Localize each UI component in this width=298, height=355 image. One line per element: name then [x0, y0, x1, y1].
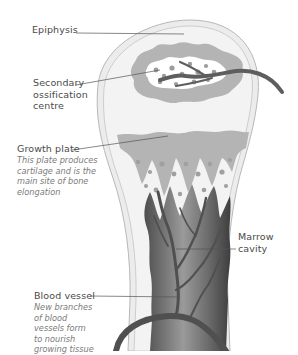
label-growth-plate: Growth plate [17, 143, 80, 155]
growth-plate-description: This plate produces cartilage and is the… [17, 155, 107, 197]
label-blood-vessel: Blood vessel [34, 290, 95, 302]
blood-vessel-description: New branches of blood vessels form to no… [34, 302, 96, 355]
label-marrow-cavity: Marrow cavity [238, 231, 288, 254]
label-secondary-ossification-centre: Secondary ossification centre [33, 77, 103, 112]
label-epiphysis: Epiphysis [32, 24, 78, 36]
